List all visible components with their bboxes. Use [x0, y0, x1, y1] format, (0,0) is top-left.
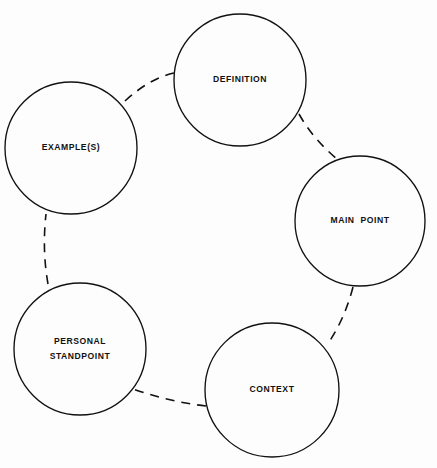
cycle-diagram: DEFINITION MAIN POINT CONTEXT PERSONAL S…: [0, 0, 437, 468]
connector-main-point-to-context: [329, 287, 353, 342]
node-main-point[interactable]: MAIN POINT: [295, 156, 425, 286]
node-personal-standpoint[interactable]: PERSONAL STANDPOINT: [14, 283, 146, 415]
node-label-personal-standpoint-line2: STANDPOINT: [50, 351, 111, 361]
connector-definition-to-main-point: [299, 114, 337, 159]
node-examples[interactable]: EXAMPLE(S): [5, 82, 137, 214]
connector-personal-standpoint-to-examples: [44, 214, 48, 284]
node-label-context: CONTEXT: [250, 384, 295, 394]
circle-node-icon-personal-standpoint: [14, 283, 146, 415]
node-context[interactable]: CONTEXT: [205, 323, 339, 457]
diagram-svg: DEFINITION MAIN POINT CONTEXT PERSONAL S…: [0, 0, 437, 468]
connector-examples-to-definition: [125, 73, 174, 101]
node-label-personal-standpoint-line1: PERSONAL: [54, 336, 106, 346]
node-label-definition: DEFINITION: [213, 74, 267, 84]
node-label-main-point: MAIN POINT: [330, 215, 389, 225]
connector-context-to-personal-standpoint: [133, 389, 206, 406]
node-label-examples: EXAMPLE(S): [42, 142, 101, 152]
node-definition[interactable]: DEFINITION: [174, 14, 306, 146]
